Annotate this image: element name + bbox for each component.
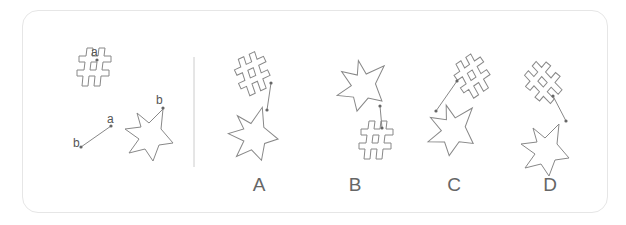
star-label-b: b	[156, 93, 163, 107]
segment-label-b: b	[73, 136, 80, 150]
option-b-figure	[331, 53, 394, 159]
option-c-label[interactable]: C	[444, 174, 464, 196]
reference-group: a b a b	[73, 45, 173, 161]
segment-ab	[81, 126, 111, 147]
segment-point-b	[79, 145, 82, 148]
segment-label-a: a	[107, 112, 114, 126]
option-a-label[interactable]: A	[249, 174, 269, 196]
option-b-label[interactable]: B	[345, 174, 365, 196]
option-c-figure	[422, 50, 497, 160]
puzzle-canvas: a b a b	[0, 0, 626, 225]
star-shape	[125, 109, 173, 161]
option-d-label[interactable]: D	[540, 174, 560, 196]
option-a-figure	[225, 49, 281, 165]
hash-label-a: a	[91, 45, 98, 59]
option-d-figure	[518, 57, 569, 176]
